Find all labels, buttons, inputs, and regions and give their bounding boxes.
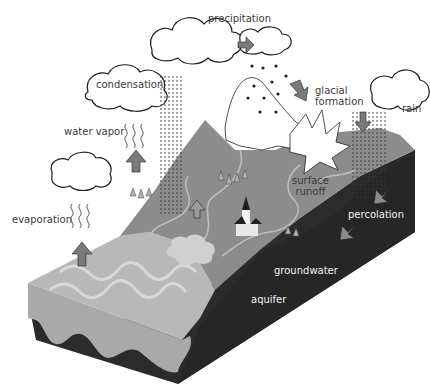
arrow-down-glacial [290,80,308,101]
water-cycle-diagram [0,0,430,386]
label-condensation: condensation [96,80,163,91]
arrow-up-vapor [126,150,146,172]
cloud-evaporation [51,152,111,190]
label-glacial-formation: glacial formation [315,86,364,107]
label-glacial-line2: formation [315,97,364,108]
cloud-precipitation [151,18,243,64]
label-aquifer: aquifer [251,295,286,306]
label-precipitation: precipitation [208,14,271,25]
label-surface-runoff-line1: surface [292,176,329,187]
label-rain: rain [402,104,421,115]
label-surface-runoff: surface runoff [292,176,329,197]
label-evaporation: evaporation [12,215,72,226]
label-surface-runoff-line2: runoff [292,187,329,198]
label-percolation: percolation [348,210,404,221]
label-glacial-line1: glacial [315,86,364,97]
label-water-vapor: water vapor [64,127,124,138]
label-groundwater: groundwater [274,266,338,277]
